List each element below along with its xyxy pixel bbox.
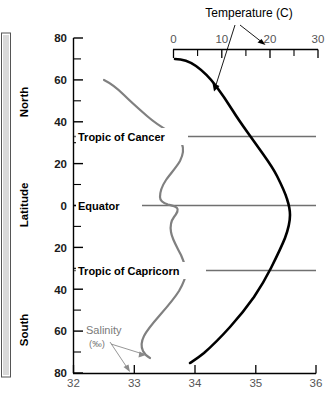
temperature-callout-arrow-right-line (240, 25, 263, 43)
reference-line-labels: Tropic of Cancer Equator Tropic of Capri… (76, 128, 206, 279)
salinity-tick-label: 35 (249, 377, 262, 389)
salinity-tick-label: 33 (128, 377, 141, 389)
latitude-temperature-salinity-chart: 80 60 40 20 0 20 40 60 80 North Latitude… (0, 0, 325, 398)
salinity-callout-arrow-down-head (124, 365, 131, 373)
salinity-callout-unit: (‰) (89, 338, 105, 349)
latitude-tick-label: 60 (54, 325, 67, 337)
salinity-tick-label: 36 (310, 377, 323, 389)
latitude-tick-label: 80 (54, 367, 67, 379)
reference-label-equator: Equator (78, 200, 120, 212)
salinity-tick-label: 34 (189, 377, 202, 389)
temperature-tick-label: 30 (312, 33, 325, 45)
chart-title: Temperature (C) (205, 6, 292, 20)
latitude-axis-label: Latitude (18, 183, 30, 228)
left-edge-bar (2, 33, 11, 377)
salinity-curve (104, 80, 186, 358)
latitude-tick-label: 60 (54, 74, 67, 86)
salinity-callout-label-text: Salinity (86, 324, 122, 336)
salinity-callout: Salinity (‰) Salinity (‰) (86, 324, 146, 372)
salinity-axis: 32 33 34 35 36 (67, 365, 322, 389)
temperature-axis: 0 10 20 30 (170, 33, 324, 58)
reference-label-tropic-of-cancer: Tropic of Cancer (78, 131, 166, 143)
reference-label-tropic-of-capricorn: Tropic of Capricorn (78, 265, 180, 277)
temperature-tick-label: 10 (215, 33, 228, 45)
temperature-curve (175, 59, 290, 363)
temperature-tick-label: 20 (264, 33, 277, 45)
latitude-tick-label: 0 (61, 200, 67, 212)
salinity-callout-arrow-right-line (111, 344, 143, 354)
temperature-tick-label: 0 (170, 33, 176, 45)
salinity-tick-label: 32 (67, 377, 80, 389)
chart-canvas: 80 60 40 20 0 20 40 60 80 North Latitude… (0, 0, 325, 398)
latitude-axis-label-south: South (18, 314, 30, 347)
latitude-tick-label: 20 (54, 242, 67, 254)
latitude-axis-label-north: North (18, 87, 30, 118)
latitude-axis: 80 60 40 20 0 20 40 60 80 North Latitude… (18, 32, 83, 379)
temperature-callout: Temperature (C) (205, 6, 292, 92)
latitude-tick-label: 80 (54, 32, 67, 44)
latitude-tick-label: 40 (54, 116, 67, 128)
latitude-tick-label: 20 (54, 158, 67, 170)
latitude-tick-label: 40 (54, 284, 67, 296)
